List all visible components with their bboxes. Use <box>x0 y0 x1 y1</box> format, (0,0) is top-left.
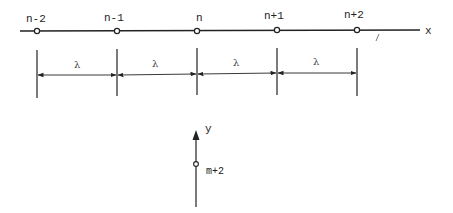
dimension-arrow <box>118 74 196 75</box>
node-label: n+1 <box>264 10 284 22</box>
node-label: n <box>196 12 203 24</box>
y-axis: y m+2 <box>193 123 225 207</box>
x-axis-label: x <box>425 25 432 37</box>
spacing-label: λ <box>152 58 159 69</box>
break-tick-mark <box>376 34 379 41</box>
node-circle-icon <box>194 28 199 33</box>
dimension-arrow <box>198 73 276 74</box>
node-circle-icon <box>354 27 359 32</box>
node-label: n-1 <box>104 12 124 24</box>
spacing-label: λ <box>74 59 81 70</box>
node-circle-icon <box>34 28 39 33</box>
spacing-label: λ <box>233 57 240 68</box>
node-label: n+2 <box>344 9 364 21</box>
lattice-diagram: x n-2 n-1 n n+1 n+2 <box>0 0 453 213</box>
arrow-up-icon <box>193 130 200 140</box>
node-n-plus-1: n+1 <box>264 10 284 33</box>
node-circle-icon <box>194 162 199 167</box>
node-circle-icon <box>114 28 119 33</box>
dimension-4: λ <box>278 56 356 73</box>
spacing-label: λ <box>313 56 320 67</box>
dimension-3: λ <box>198 57 276 74</box>
x-axis: x <box>20 25 432 41</box>
dimension-1: λ <box>38 59 116 75</box>
node-circle-icon <box>274 27 279 32</box>
y-axis-label: y <box>205 123 212 135</box>
node-label: n-2 <box>26 13 46 25</box>
node-n-plus-2: n+2 <box>344 9 364 33</box>
node-label: m+2 <box>206 166 224 177</box>
dimension-2: λ <box>118 58 196 75</box>
node-m-plus-2: m+2 <box>194 162 224 177</box>
